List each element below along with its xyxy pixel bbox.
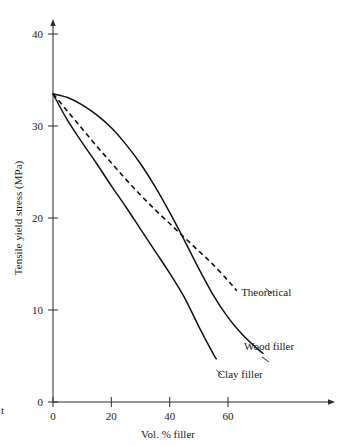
y-tick-label-10: 10 [32,304,44,316]
y-axis-arrowhead [50,19,55,26]
x-axis-arrowhead [328,399,335,404]
y-axis-title: Tensile yield stress (MPa) [12,160,25,275]
series-label-wood-filler: Wood filler [244,340,294,352]
x-tick-label-60: 60 [223,410,235,422]
x-tick-label-20: 20 [106,410,118,422]
x-tick-label-0: 0 [50,410,56,422]
data-curves-group [53,94,263,359]
series-label-clay-filler: Clay filler [218,368,263,380]
x-axis-title: Vol. % filler [141,428,195,440]
y-tick-label-20: 20 [32,212,44,224]
series-curve-clay-filler [53,94,216,359]
y-tick-label-30: 30 [32,120,44,132]
label-leader-group [217,289,272,376]
series-label-theoretical: Theoretical [241,286,291,298]
y-tick-label-40: 40 [32,28,44,40]
figure-container: 40 30 20 10 0 0 20 40 60 Vol. % filler T… [0,0,344,446]
series-curve-theoretical [53,94,237,291]
y-tick-label-0: 0 [38,396,44,408]
wood-filler-leader-line [262,357,269,362]
x-axis-tick-labels: 0 20 40 60 [50,410,234,422]
tensile-yield-stress-chart: 40 30 20 10 0 0 20 40 60 Vol. % filler T… [0,0,344,446]
y-axis-tick-labels: 40 30 20 10 0 [32,28,44,408]
caption-fragment: t [1,404,4,416]
series-labels-group: TheoreticalWood fillerClay filler [218,286,295,380]
series-curve-wood-filler [53,94,263,353]
x-tick-label-40: 40 [164,410,176,422]
